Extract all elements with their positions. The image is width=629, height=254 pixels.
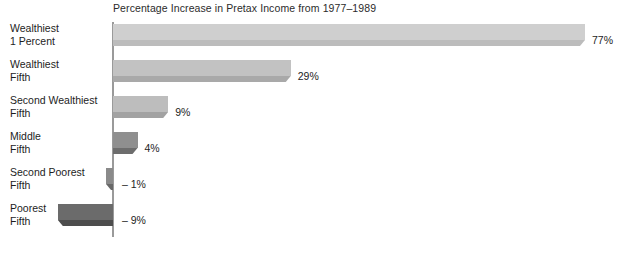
category-label: WealthiestFifth [10, 58, 59, 84]
category-label-line2: 1 Percent [10, 35, 59, 48]
bar-face [113, 24, 585, 40]
category-label: Second PoorestFifth [10, 166, 85, 192]
category-label: PoorestFifth [10, 202, 46, 228]
bar [58, 204, 113, 226]
value-label: – 1% [122, 178, 146, 190]
category-label: MiddleFifth [10, 130, 41, 156]
bar-base-shadow [113, 76, 291, 82]
bar-face [58, 204, 113, 220]
value-label: 29% [298, 70, 319, 82]
category-label: Wealthiest1 Percent [10, 22, 59, 48]
category-label-line1: Second Wealthiest [10, 94, 97, 106]
value-label: 9% [175, 106, 190, 118]
bar-face [106, 168, 113, 184]
bar [113, 60, 291, 82]
category-label-line1: Second Poorest [10, 166, 85, 178]
value-label: – 9% [122, 214, 146, 226]
value-label: 4% [145, 142, 160, 154]
category-label-line1: Poorest [10, 202, 46, 214]
category-label-line1: Wealthiest [10, 22, 59, 34]
category-label-line2: Fifth [10, 143, 41, 156]
bar-face [113, 96, 168, 112]
bar-face [113, 60, 291, 76]
chart-title: Percentage Increase in Pretax Income fro… [113, 2, 376, 14]
value-label: 77% [592, 34, 613, 46]
bar-base-shadow [58, 220, 113, 226]
category-label-line1: Middle [10, 130, 41, 142]
chart-container: Percentage Increase in Pretax Income fro… [0, 0, 629, 254]
category-label-line2: Fifth [10, 107, 97, 120]
bar-base-shadow [113, 40, 585, 46]
category-label-line2: Fifth [10, 215, 46, 228]
bar [113, 96, 168, 118]
bar [113, 24, 585, 46]
bar-base-shadow [113, 148, 138, 154]
category-label-line2: Fifth [10, 71, 59, 84]
category-label: Second WealthiestFifth [10, 94, 97, 120]
bar [106, 168, 113, 190]
bar-face [113, 132, 138, 148]
category-label-line1: Wealthiest [10, 58, 59, 70]
bar [113, 132, 138, 154]
bar-base-shadow [106, 184, 113, 190]
bar-base-shadow [113, 112, 168, 118]
category-label-line2: Fifth [10, 179, 85, 192]
